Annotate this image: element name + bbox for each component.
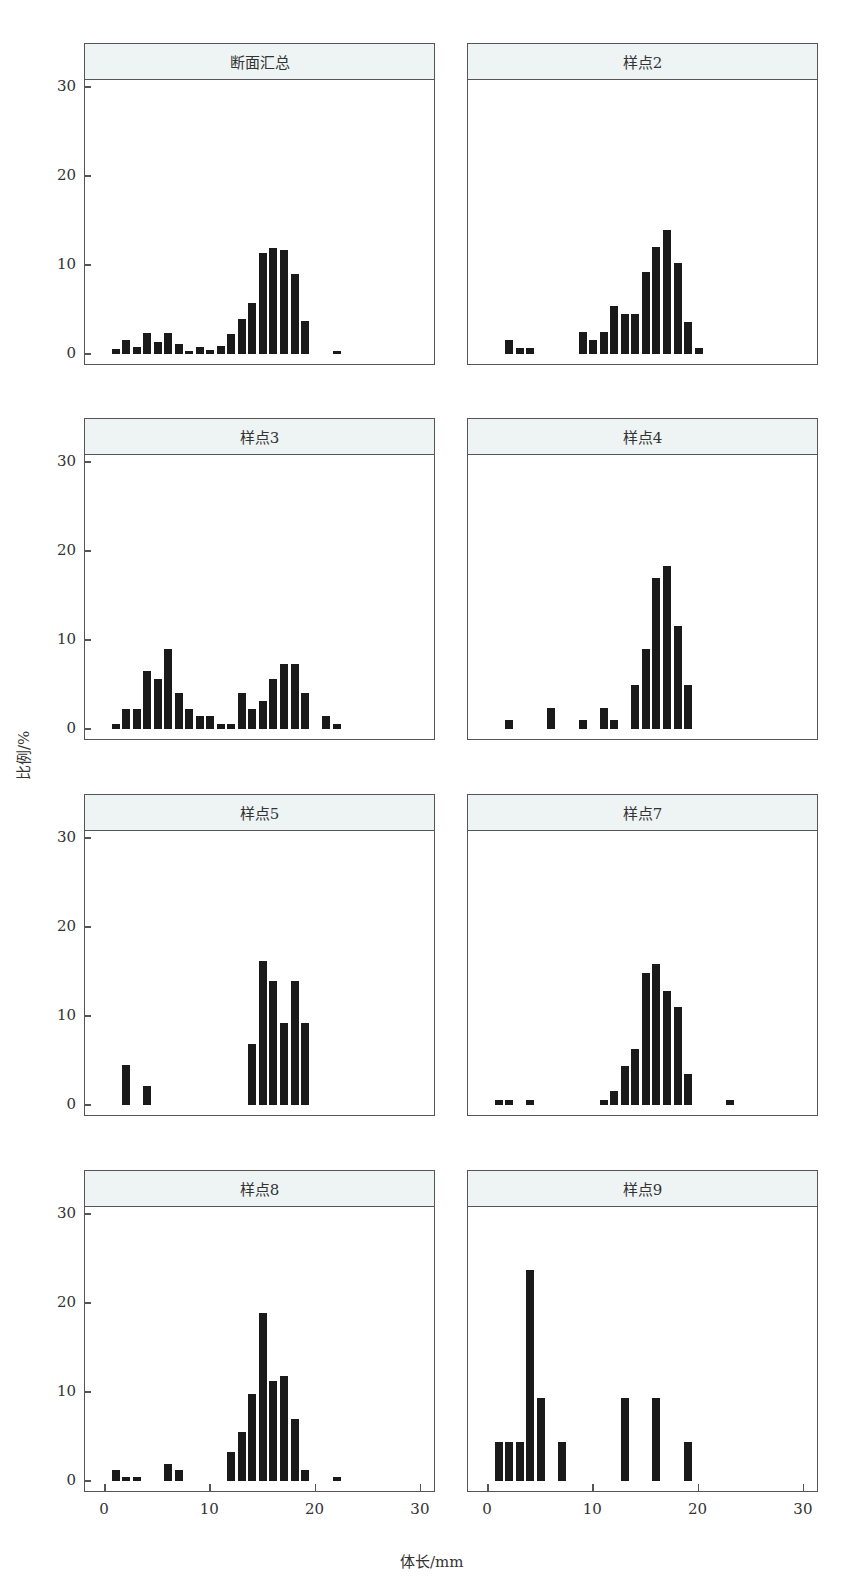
- histogram-bar: [505, 1442, 513, 1481]
- chart-panel: 样点5: [84, 794, 435, 1116]
- panel-title: 样点5: [85, 795, 434, 831]
- histogram-bar: [684, 685, 692, 730]
- panel-title: 样点9: [468, 1171, 817, 1207]
- y-tick: [84, 1104, 91, 1106]
- histogram-bar: [610, 1091, 618, 1105]
- histogram-bar: [516, 1442, 524, 1481]
- histogram-bar: [122, 1477, 130, 1481]
- x-tick-label: 20: [295, 1500, 335, 1518]
- histogram-bar: [248, 303, 256, 354]
- plot-area: [468, 831, 817, 1115]
- histogram-bar: [684, 1442, 692, 1481]
- histogram-bar: [301, 321, 309, 354]
- plot-area: [468, 455, 817, 739]
- x-tick-label: 30: [783, 1500, 823, 1518]
- y-tick: [84, 1391, 91, 1393]
- histogram-bar: [280, 1023, 288, 1105]
- figure: 断面汇总0102030样点2样点30102030样点4样点50102030样点7…: [0, 0, 865, 1578]
- histogram-bar: [505, 720, 513, 729]
- x-tick: [315, 1484, 317, 1491]
- histogram-bar: [579, 720, 587, 729]
- histogram-bar: [333, 724, 341, 729]
- histogram-bar: [333, 351, 341, 354]
- x-tick: [592, 1484, 594, 1491]
- y-tick-label: 0: [46, 1095, 76, 1113]
- histogram-bar: [726, 1100, 734, 1105]
- histogram-bar: [133, 1477, 141, 1481]
- plot-area: [85, 80, 434, 364]
- plot-area: [468, 1207, 817, 1491]
- plot-area: [85, 455, 434, 739]
- histogram-bar: [652, 247, 660, 354]
- panel-title: 样点2: [468, 44, 817, 80]
- y-tick-label: 10: [46, 1382, 76, 1400]
- histogram-bar: [301, 1470, 309, 1481]
- histogram-bar: [652, 964, 660, 1105]
- histogram-bar: [112, 724, 120, 729]
- histogram-bar: [291, 1419, 299, 1481]
- y-tick-label: 0: [46, 1471, 76, 1489]
- histogram-bar: [610, 720, 618, 729]
- chart-panel: 样点2: [467, 43, 818, 365]
- y-tick: [84, 639, 91, 641]
- y-tick: [84, 550, 91, 552]
- histogram-bar: [291, 981, 299, 1105]
- histogram-bar: [122, 340, 130, 354]
- histogram-bar: [269, 1381, 277, 1481]
- chart-panel: 样点9: [467, 1170, 818, 1492]
- x-axis-title: 体长/mm: [400, 1550, 464, 1571]
- y-axis-title: 比例/%: [12, 731, 33, 780]
- histogram-bar: [291, 664, 299, 729]
- plot-area: [85, 831, 434, 1115]
- chart-panel: 样点7: [467, 794, 818, 1116]
- x-tick-label: 30: [400, 1500, 440, 1518]
- histogram-bar: [259, 961, 267, 1105]
- y-tick-label: 20: [46, 166, 76, 184]
- histogram-bar: [175, 693, 183, 729]
- histogram-bar: [280, 664, 288, 729]
- histogram-bar: [238, 319, 246, 354]
- x-tick: [420, 1484, 422, 1491]
- histogram-bar: [133, 347, 141, 354]
- histogram-bar: [663, 566, 671, 729]
- y-tick-label: 0: [46, 719, 76, 737]
- histogram-bar: [238, 1432, 246, 1481]
- histogram-bar: [495, 1442, 503, 1481]
- plot-area: [468, 80, 817, 364]
- histogram-bar: [291, 274, 299, 354]
- histogram-bar: [526, 348, 534, 354]
- y-tick-label: 20: [46, 917, 76, 935]
- y-tick: [84, 86, 91, 88]
- y-tick: [84, 728, 91, 730]
- histogram-bar: [217, 346, 225, 354]
- histogram-bar: [185, 351, 193, 354]
- histogram-bar: [558, 1442, 566, 1481]
- histogram-bar: [600, 332, 608, 354]
- panel-title: 样点7: [468, 795, 817, 831]
- histogram-bar: [154, 679, 162, 729]
- histogram-bar: [175, 344, 183, 354]
- histogram-bar: [259, 701, 267, 729]
- histogram-bar: [547, 708, 555, 729]
- x-tick-label: 20: [678, 1500, 718, 1518]
- histogram-bar: [322, 716, 330, 729]
- histogram-bar: [164, 1464, 172, 1481]
- histogram-bar: [143, 333, 151, 354]
- plot-area: [85, 1207, 434, 1491]
- y-tick-label: 30: [46, 1204, 76, 1222]
- x-tick: [209, 1484, 211, 1491]
- histogram-bar: [600, 1100, 608, 1105]
- y-tick-label: 10: [46, 255, 76, 273]
- histogram-bar: [505, 1100, 513, 1105]
- histogram-bar: [217, 724, 225, 729]
- histogram-bar: [269, 981, 277, 1105]
- chart-panel: 样点3: [84, 418, 435, 740]
- histogram-bar: [505, 340, 513, 354]
- histogram-bar: [122, 1065, 130, 1105]
- histogram-bar: [227, 1452, 235, 1481]
- histogram-bar: [333, 1477, 341, 1481]
- histogram-bar: [631, 314, 639, 354]
- histogram-bar: [164, 649, 172, 729]
- histogram-bar: [526, 1270, 534, 1481]
- y-tick: [84, 926, 91, 928]
